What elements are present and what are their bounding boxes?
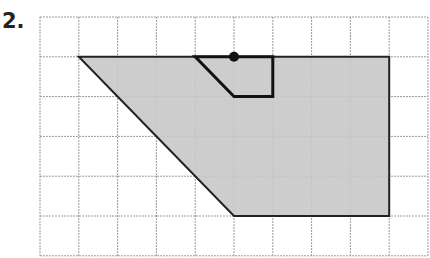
grid-diagram [0,0,430,258]
center-of-dilation-dot [229,52,239,62]
